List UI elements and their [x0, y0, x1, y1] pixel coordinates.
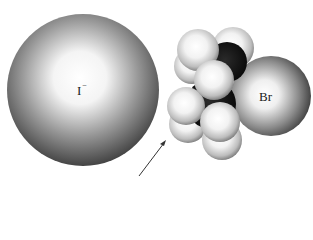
bromine-label: Br	[259, 90, 272, 103]
hydrogen-sphere-bottom	[200, 102, 240, 142]
iodide-label: I−	[77, 84, 87, 97]
hydrogen-sphere-center	[194, 60, 234, 100]
attack-direction-arrow	[139, 140, 166, 176]
iodide-charge: −	[82, 81, 87, 90]
iodide-symbol: I	[77, 83, 81, 98]
